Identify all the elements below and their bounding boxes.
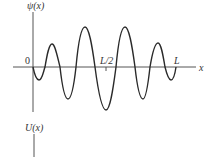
- psi-axis-label: ψ(x): [27, 0, 45, 12]
- length-label: L: [173, 55, 180, 66]
- origin-label: 0: [25, 55, 30, 66]
- x-axis-label: x: [198, 62, 204, 73]
- wavefunction-diagram: ψ(x) U(x) x 0 L/2 L: [0, 0, 204, 157]
- half-length-label: L/2: [99, 55, 113, 66]
- wavefunction-curve: [33, 27, 176, 110]
- u-axis-label: U(x): [25, 122, 44, 134]
